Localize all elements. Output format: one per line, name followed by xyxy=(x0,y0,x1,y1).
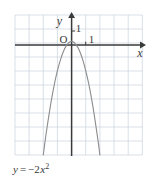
parabola-figure: y O 1 1 x y=−2x2 xyxy=(0,0,158,179)
x-axis-label: x xyxy=(136,46,143,60)
equation-coefficient: −2 xyxy=(28,163,40,175)
y-axis-label: y xyxy=(56,14,63,28)
equation-equals: = xyxy=(20,163,26,175)
y-axis xyxy=(68,12,75,156)
x-axis-tick-label: 1 xyxy=(89,33,95,45)
grid-horizontal-lines xyxy=(15,15,142,155)
equation-exponent: 2 xyxy=(45,162,49,171)
coordinate-plot: y O 1 1 x y=−2x2 xyxy=(0,0,158,179)
equation-lhs: y xyxy=(12,163,18,175)
x-axis xyxy=(15,42,146,49)
origin-label: O xyxy=(60,33,68,45)
equation-caption-text: y=−2x2 xyxy=(12,162,49,175)
equation-caption: y=−2x2 xyxy=(12,162,49,175)
y-axis-tick-label: 1 xyxy=(76,22,82,34)
